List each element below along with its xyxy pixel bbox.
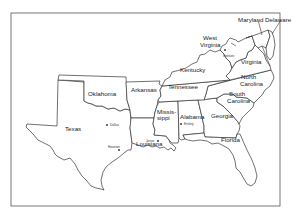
city-label-institute: Institute <box>223 54 234 58</box>
label-oklahoma: Oklahoma <box>88 90 117 97</box>
label-west-virginia-2: Virginia <box>200 41 221 48</box>
label-north-carolina-2: Carolina <box>240 80 264 87</box>
label-alabama: Alabama <box>180 113 205 120</box>
label-florida: Florida <box>221 136 240 143</box>
city-label-houston: Houston <box>108 145 120 149</box>
label-mississippi-2: sippi <box>157 114 170 121</box>
city-dot-institute <box>224 49 226 51</box>
city-dot-houston <box>118 149 120 151</box>
label-north-carolina-1: North <box>241 73 257 80</box>
city-label-ensley: Ensley <box>184 122 194 126</box>
city-dot-dallas <box>106 124 108 126</box>
label-georgia: Georgia <box>211 112 234 119</box>
label-south-carolina-2: Carolina <box>227 97 251 104</box>
label-west-virginia-1: West <box>203 34 217 41</box>
label-south-carolina-1: South <box>229 90 246 97</box>
label-maryland: Maryland <box>238 16 264 23</box>
label-delaware: Delaware <box>265 16 292 23</box>
city-dot-ensley <box>180 123 182 125</box>
city-dot-jesse <box>157 140 159 142</box>
southern-states-map: Maryland Delaware West Virginia Virginia… <box>0 0 302 212</box>
city-label-dallas: Dallas <box>110 123 119 127</box>
label-texas: Texas <box>65 125 81 132</box>
city-label-jesse: Jesse <box>146 139 155 143</box>
label-tennessee: Tennessee <box>168 83 198 90</box>
label-virginia: Virginia <box>241 58 262 65</box>
label-kentucky: Kentucky <box>180 66 206 73</box>
label-arkansas: Arkansas <box>131 86 157 93</box>
